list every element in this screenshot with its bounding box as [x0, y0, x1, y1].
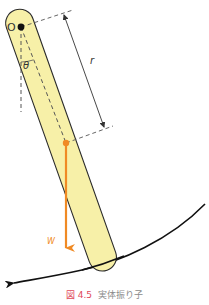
pivot-label: O [7, 21, 16, 34]
r-label: r [90, 55, 95, 66]
r-dimension-line [64, 15, 104, 127]
figure-caption: 図 4.5実体振り子 [0, 289, 209, 301]
physical-pendulum-diagram: O θ r W [0, 0, 209, 305]
caption-title: 実体振り子 [98, 290, 143, 300]
caption-number: 図 4.5 [66, 290, 92, 300]
pivot-dot [18, 24, 25, 31]
weight-label: W [47, 237, 56, 246]
theta-label: θ [23, 60, 29, 71]
center-of-mass-dot [63, 140, 69, 146]
rigid-body-bar [2, 5, 121, 275]
